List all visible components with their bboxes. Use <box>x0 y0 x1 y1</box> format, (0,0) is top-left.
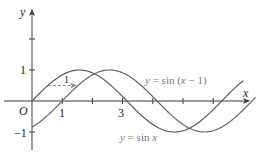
x-axis-label: x <box>242 86 249 100</box>
y-tick-label-1: 1 <box>20 63 26 77</box>
curve-label-base: y = sin x <box>119 131 157 143</box>
shift-amount-label: 1 <box>64 74 69 85</box>
curve-label-shifted: y = sin (x − 1) <box>144 74 207 87</box>
y-tick-label-neg1: −1 <box>14 126 27 140</box>
chart-container: y x O 1 3 1 −1 1 y = sin (x − 1) y = sin… <box>0 0 260 160</box>
x-tick-label-1: 1 <box>59 106 65 120</box>
origin-label: O <box>19 104 28 118</box>
axes <box>4 10 249 150</box>
y-axis-label: y <box>19 5 26 19</box>
sine-shift-plot: y x O 1 3 1 −1 1 y = sin (x − 1) y = sin… <box>0 0 260 160</box>
x-tick-label-3: 3 <box>118 106 124 120</box>
